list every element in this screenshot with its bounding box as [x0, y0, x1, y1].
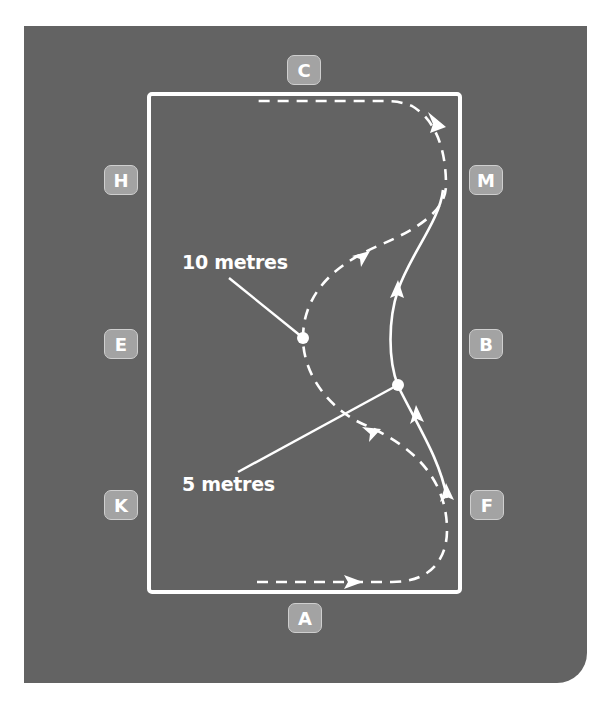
marker-m: M [469, 165, 503, 195]
leader-line-10m [229, 278, 302, 337]
arrow-right-icon [344, 575, 363, 589]
label-10-metres: 10 metres [182, 251, 288, 273]
solid-path-5m [391, 190, 448, 498]
marker-f-label: F [481, 495, 493, 516]
marker-k-label: K [114, 495, 128, 516]
marker-a-label: A [298, 608, 312, 629]
marker-m-label: M [477, 170, 495, 191]
dashed-path-10m [257, 101, 447, 582]
arrow-up-icon [440, 483, 454, 502]
marker-h: H [104, 165, 138, 195]
marker-b-label: B [479, 334, 493, 355]
marker-e-label: E [115, 334, 127, 355]
center-dot-5m [392, 379, 404, 391]
marker-b: B [469, 329, 503, 359]
marker-c-label: C [297, 60, 310, 81]
arrow-icons [344, 112, 446, 589]
marker-k: K [104, 490, 138, 520]
marker-h-label: H [113, 170, 128, 191]
center-dot-10m [297, 332, 309, 344]
label-5-metres: 5 metres [182, 473, 275, 495]
marker-c: C [287, 55, 321, 85]
marker-f: F [470, 490, 504, 520]
marker-a: A [288, 603, 322, 633]
marker-e: E [104, 329, 138, 359]
arrow-up-left-icon [362, 427, 381, 442]
